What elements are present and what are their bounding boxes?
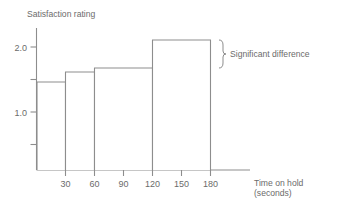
x-tick-label-30: 30: [60, 179, 70, 189]
y-tick-label-2.0: 2.0: [14, 43, 27, 53]
x-axis-subtitle: (seconds): [254, 188, 292, 198]
satisfaction-rating-bar-chart: Satisfaction rating 2.0 1.0 30 60 90: [0, 0, 353, 213]
bar-120-180: [153, 40, 211, 170]
x-axis-title: Time on hold: [254, 178, 304, 188]
bar-60-120: [95, 68, 153, 170]
x-tick-label-150: 150: [174, 179, 189, 189]
x-tick-label-90: 90: [118, 179, 128, 189]
x-tick-label-60: 60: [89, 179, 99, 189]
bar-30-60: [66, 72, 95, 170]
x-tick-label-120: 120: [145, 179, 160, 189]
chart-page: Satisfaction rating 2.0 1.0 30 60 90: [0, 0, 353, 213]
x-tick-label-180: 180: [203, 179, 218, 189]
significant-difference-label: Significant difference: [230, 49, 310, 59]
y-tick-label-1.0: 1.0: [14, 108, 27, 118]
significant-difference-brace: [219, 40, 226, 68]
bar-0-30: [37, 82, 66, 170]
y-axis-title: Satisfaction rating: [27, 9, 96, 19]
